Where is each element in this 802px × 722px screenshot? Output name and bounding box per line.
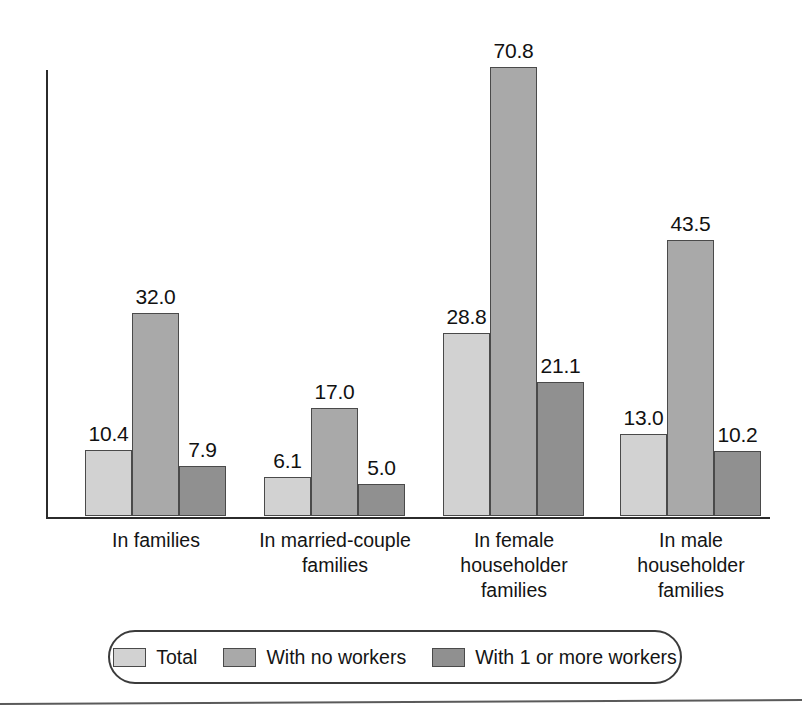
legend-item-total[interactable]: Total — [113, 646, 197, 669]
bar-group: 28.870.821.1 — [443, 70, 584, 516]
bar-group: 10.432.07.9 — [85, 70, 226, 516]
legend-swatch-with-no-workers — [223, 648, 256, 667]
legend-label-total: Total — [156, 646, 197, 669]
bar-value-label: 43.5 — [653, 213, 728, 234]
bar[interactable] — [537, 382, 584, 516]
bar-value-label: 21.1 — [523, 355, 598, 376]
plot-area: 10.432.07.96.117.05.028.870.821.113.043.… — [46, 70, 790, 518]
bar-value-label: 17.0 — [297, 381, 372, 402]
bar[interactable] — [667, 240, 714, 516]
bar[interactable] — [85, 450, 132, 516]
bar[interactable] — [714, 451, 761, 516]
bar-group: 13.043.510.2 — [620, 70, 761, 516]
bar[interactable] — [443, 333, 490, 516]
bottom-divider-rule — [0, 699, 802, 705]
bar-value-label: 70.8 — [476, 40, 551, 61]
legend-swatch-with-1-or-more-workers — [432, 648, 465, 667]
legend-label-with-1-or-more-workers: With 1 or more workers — [475, 646, 677, 669]
bar[interactable] — [620, 434, 667, 516]
legend-swatch-total — [113, 648, 146, 667]
legend-label-with-no-workers: With no workers — [266, 646, 406, 669]
bar[interactable] — [179, 466, 226, 516]
legend-item-with-1-or-more-workers[interactable]: With 1 or more workers — [432, 646, 677, 669]
bar-value-label: 10.2 — [700, 424, 775, 445]
bar[interactable] — [358, 484, 405, 516]
bar[interactable] — [132, 313, 179, 516]
chart-legend: Total With no workers With 1 or more wor… — [108, 630, 682, 684]
legend-item-with-no-workers[interactable]: With no workers — [223, 646, 406, 669]
bar-chart-figure: 10.432.07.96.117.05.028.870.821.113.043.… — [0, 0, 802, 722]
y-axis-line — [46, 70, 48, 518]
bar-value-label: 7.9 — [165, 439, 240, 460]
category-label: In male householder families — [586, 528, 796, 603]
bar-group: 6.117.05.0 — [264, 70, 405, 516]
bar-value-label: 5.0 — [344, 457, 419, 478]
bar[interactable] — [490, 67, 537, 516]
x-axis-line — [46, 517, 770, 519]
bar[interactable] — [264, 477, 311, 516]
bar-value-label: 32.0 — [118, 286, 193, 307]
